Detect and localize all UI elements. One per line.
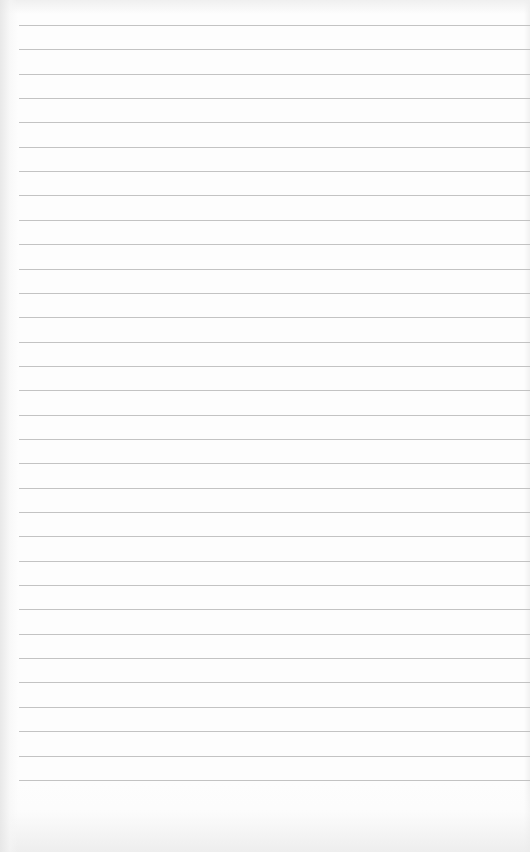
ruled-line (19, 122, 530, 123)
ruled-line (19, 171, 530, 172)
ruled-line (19, 756, 530, 757)
ruled-line (19, 707, 530, 708)
ruled-line (19, 366, 530, 367)
ruled-line (19, 244, 530, 245)
ruled-line (19, 536, 530, 537)
ruled-line (19, 390, 530, 391)
ruled-line (19, 634, 530, 635)
ruled-line (19, 561, 530, 562)
ruled-line (19, 342, 530, 343)
ruled-line (19, 49, 530, 50)
lined-paper-sheet (0, 0, 530, 852)
ruled-line (19, 609, 530, 610)
ruled-line (19, 195, 530, 196)
ruled-line (19, 488, 530, 489)
ruled-line (19, 317, 530, 318)
ruled-line (19, 658, 530, 659)
ruled-line (19, 512, 530, 513)
ruled-line (19, 463, 530, 464)
ruled-line (19, 780, 530, 781)
ruled-line (19, 220, 530, 221)
ruled-line (19, 147, 530, 148)
ruled-line (19, 682, 530, 683)
ruled-line (19, 74, 530, 75)
ruled-line (19, 585, 530, 586)
ruled-line (19, 731, 530, 732)
ruled-line (19, 415, 530, 416)
ruled-line (19, 98, 530, 99)
ruled-line (19, 25, 530, 26)
ruled-line (19, 439, 530, 440)
ruled-line (19, 269, 530, 270)
ruled-line (19, 293, 530, 294)
